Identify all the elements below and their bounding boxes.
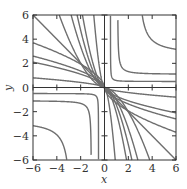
y-tick-label: −6 [13,154,29,167]
hyperbolic-curve-q1 [110,16,175,82]
x-tick-label: −4 [49,162,65,175]
y-tick-label: 4 [22,33,29,46]
chart: −6−4−20246 −6−4−20246 x y [0,0,187,189]
x-tick-label: 6 [173,162,180,175]
y-tick-label: 0 [22,82,29,95]
y-tick-label: 2 [22,57,29,70]
x-tick-label: 4 [149,162,156,175]
y-tick-label: −4 [13,130,29,143]
hyperbolic-curve-q1 [142,15,176,49]
hyperbolic-curve-q3 [33,94,98,160]
x-axis-label: x [101,173,108,186]
y-tick-label: −2 [13,106,29,119]
x-tick-label: −2 [73,162,89,175]
y-tick-label: 6 [22,9,29,22]
y-axis-label: y [2,84,15,92]
x-tick-label: 2 [125,162,132,175]
hyperbolic-curve-q3 [33,126,67,160]
y-tick-labels: −6−4−20246 [13,9,29,167]
